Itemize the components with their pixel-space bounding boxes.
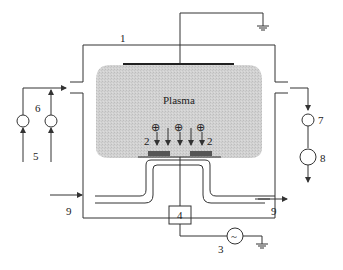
label-substrate-right: 2 bbox=[207, 135, 213, 147]
ion-icon: ⊕ bbox=[151, 121, 160, 133]
label-valve: 7 bbox=[318, 114, 324, 126]
flow-meter-right bbox=[45, 115, 57, 127]
ion-icon: ⊕ bbox=[174, 121, 183, 133]
cooling-channel bbox=[50, 160, 287, 203]
substrate-right bbox=[190, 151, 212, 156]
label-substrate-left: 2 bbox=[144, 135, 150, 147]
label-pump: 8 bbox=[320, 152, 326, 164]
gas-inlet-system bbox=[17, 88, 66, 162]
pump bbox=[300, 149, 316, 165]
label-flow-meter: 6 bbox=[35, 102, 41, 114]
exhaust-system bbox=[290, 88, 316, 182]
plasma-region bbox=[96, 65, 262, 158]
label-rf-source: 3 bbox=[218, 243, 224, 255]
label-coolant-out: 9 bbox=[271, 205, 277, 217]
substrate-left bbox=[148, 151, 170, 156]
label-coolant-in: 9 bbox=[66, 205, 72, 217]
ac-icon: ~ bbox=[231, 230, 237, 242]
label-gas-inlet: 5 bbox=[33, 150, 39, 162]
label-chamber: 1 bbox=[120, 32, 126, 44]
label-matching-box: 4 bbox=[177, 209, 183, 221]
flow-meter-left bbox=[17, 115, 29, 127]
plasma-label: Plasma bbox=[163, 94, 195, 106]
ion-icon: ⊕ bbox=[196, 121, 205, 133]
valve bbox=[302, 114, 314, 126]
plasma-reactor-diagram: 1 Plasma ⊕ ⊕ ⊕ 2 2 9 9 4 ~ 3 bbox=[0, 0, 343, 270]
